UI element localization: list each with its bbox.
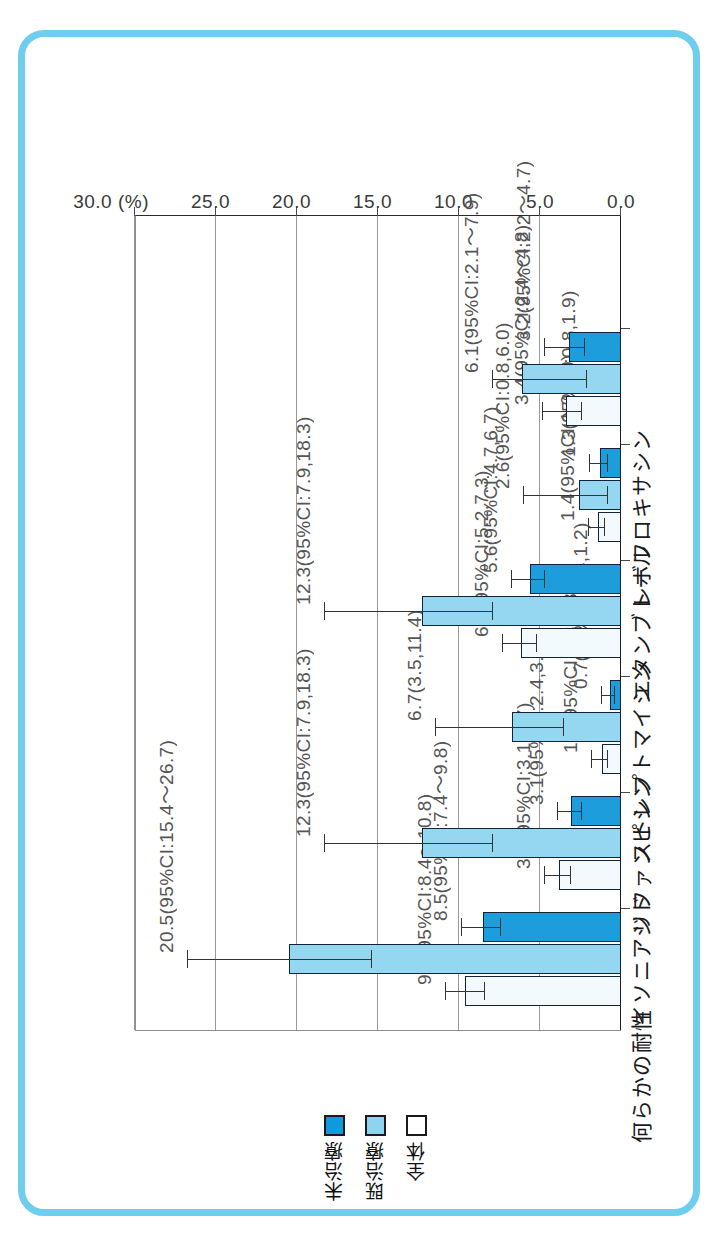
error-cap-lower [563, 718, 564, 736]
error-cap-upper [445, 982, 446, 1000]
error-cap-upper [544, 338, 545, 356]
legend-label: 全体 [403, 1141, 430, 1181]
error-bar [543, 411, 582, 412]
error-cap-upper [544, 866, 545, 884]
error-cap-lower [581, 402, 582, 420]
error-cap-lower [584, 338, 585, 356]
legend-label: 未治療 [321, 1141, 348, 1201]
error-cap-upper [324, 834, 325, 852]
error-cap-upper [557, 802, 558, 820]
axis-tick-label-text: 20.0 [272, 191, 311, 213]
error-bar [503, 643, 537, 644]
axis-tick-label-text: 25.0 [191, 191, 230, 213]
error-bar [325, 611, 493, 612]
error-bar [446, 991, 485, 992]
legend-item[interactable]: 全体 [403, 1115, 430, 1201]
legend-item[interactable]: 既治療 [362, 1115, 389, 1201]
error-cap-upper [511, 570, 512, 588]
legend-item[interactable]: 未治療 [321, 1115, 348, 1201]
error-cap-upper [435, 718, 436, 736]
axis-tick-label-text: 30.0 (%) [73, 191, 149, 213]
axis-tick-label-text: 0.0 [607, 191, 635, 213]
error-cap-lower [607, 454, 608, 472]
plot-area: 0.05.010.015.020.025.030.0 (%)何らかの耐性9.6(… [135, 215, 621, 1031]
error-bar [436, 727, 564, 728]
gridline [134, 216, 135, 1030]
error-bar [558, 811, 582, 812]
axis-tick-label-text: 15.0 [353, 191, 392, 213]
category-label: レボフロキサシン [625, 428, 655, 608]
error-cap-lower [607, 750, 608, 768]
data-label: 3.2(95%CI:2.2〜4.7) [508, 161, 535, 341]
error-cap-lower [492, 834, 493, 852]
category-label: 何らかの耐性 [625, 1008, 655, 1143]
error-cap-upper [542, 402, 543, 420]
error-bar [493, 379, 587, 380]
error-cap-upper [591, 750, 592, 768]
error-cap-lower [604, 518, 605, 536]
category-group: ストレプトマイシン6.2(95%CI:5.2,7.3)12.3(95%CI:7.… [136, 560, 621, 676]
category-tick [621, 328, 630, 329]
category-group: イソニアジド3.8(95%CI:3.1,4.7)12.3(95%CI:7.9,1… [136, 792, 621, 908]
error-cap-lower [544, 570, 545, 588]
error-cap-lower [500, 918, 501, 936]
category-group: エタンブトール1.4(95%CI:1.0,2.0)2.6(95%CI:0.8,6… [136, 444, 621, 560]
error-cap-lower [492, 602, 493, 620]
legend-label: 既治療 [362, 1141, 389, 1201]
error-cap-upper [492, 370, 493, 388]
error-cap-lower [607, 486, 608, 504]
error-cap-lower [586, 370, 587, 388]
error-cap-upper [588, 518, 589, 536]
legend-swatch-untreated [324, 1115, 345, 1136]
bar-untreated [483, 912, 621, 942]
category-group: 何らかの耐性9.6(95%CI:8.4〜10.8)20.5(95%CI:15.4… [136, 908, 621, 1024]
error-bar [524, 495, 608, 496]
error-bar [512, 579, 544, 580]
error-bar [545, 347, 586, 348]
error-bar [589, 527, 605, 528]
data-label: 6.1(95%CI:2.1〜7.9) [456, 193, 483, 373]
error-cap-lower [614, 686, 615, 704]
error-bar [325, 843, 493, 844]
error-bar [462, 927, 501, 928]
error-cap-lower [536, 634, 537, 652]
error-cap-lower [570, 866, 571, 884]
error-bar [592, 759, 608, 760]
error-cap-upper [502, 634, 503, 652]
legend-swatch-overall [406, 1115, 427, 1136]
error-cap-upper [589, 454, 590, 472]
error-cap-upper [187, 950, 188, 968]
error-bar [545, 875, 571, 876]
error-bar [590, 463, 608, 464]
error-cap-upper [601, 686, 602, 704]
bar-overall [465, 976, 621, 1006]
error-cap-lower [484, 982, 485, 1000]
bar-chart: 0.05.010.015.020.025.030.0 (%)何らかの耐性9.6(… [79, 123, 639, 1123]
error-cap-lower [581, 802, 582, 820]
category-group: リファンピシン1.2(95%CI:0.8,1.8)6.7(3.5,11.4)0.… [136, 676, 621, 792]
legend-swatch-treated [365, 1115, 386, 1136]
error-cap-upper [523, 486, 524, 504]
chart-legend: 全体既治療未治療 [321, 1115, 430, 1201]
error-cap-lower [371, 950, 372, 968]
figure-frame: 0.05.010.015.020.025.030.0 (%)何らかの耐性9.6(… [18, 30, 700, 1216]
error-bar [188, 959, 371, 960]
error-cap-upper [324, 602, 325, 620]
error-cap-upper [461, 918, 462, 936]
category-group: レボフロキサシン3.4(95%CI:2.4〜4.8)6.1(95%CI:2.1〜… [136, 328, 621, 444]
